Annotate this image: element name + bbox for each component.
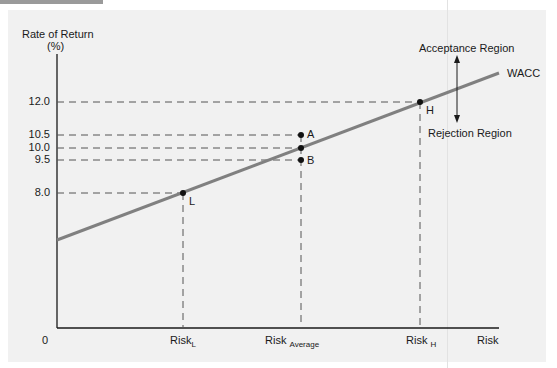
wacc-label: WACC — [507, 67, 540, 79]
x-tick-risk-average: Risk Average — [265, 334, 319, 346]
risk-text: Risk — [170, 334, 191, 346]
point-label-h: H — [426, 104, 434, 116]
point-b — [298, 157, 304, 163]
y-axis-unit: (%) — [47, 40, 64, 52]
dashed-guides — [57, 102, 420, 328]
wacc-line — [57, 73, 499, 240]
x-axis-title: Risk — [477, 334, 498, 346]
risk-text: Risk — [265, 334, 286, 346]
risk-sub-h: H — [430, 340, 436, 349]
y-tick-9-5: 9.5 — [10, 153, 50, 165]
x-tick-risk-l: RiskL — [170, 334, 196, 346]
chart-svg — [0, 0, 557, 368]
risk-sub-l: L — [191, 340, 195, 349]
y-axis-title: Rate of Return — [22, 28, 94, 40]
y-tick-10: 10.0 — [10, 141, 50, 153]
y-tick-10-5: 10.5 — [10, 128, 50, 140]
y-tick-12: 12.0 — [10, 95, 50, 107]
point-average — [298, 145, 304, 151]
point-h — [417, 99, 423, 105]
risk-sub-average: Average — [289, 340, 319, 349]
point-l — [180, 190, 186, 196]
y-tick-8: 8.0 — [10, 186, 50, 198]
x-tick-risk-h: Risk H — [406, 334, 436, 346]
point-label-a: A — [307, 128, 314, 140]
point-a — [298, 132, 304, 138]
risk-text: Risk — [406, 334, 427, 346]
acceptance-region-label: Acceptance Region — [419, 42, 514, 54]
point-label-b: B — [307, 154, 314, 166]
origin-label: 0 — [42, 334, 48, 346]
point-label-l: L — [189, 195, 195, 207]
rejection-region-label: Rejection Region — [428, 127, 512, 139]
